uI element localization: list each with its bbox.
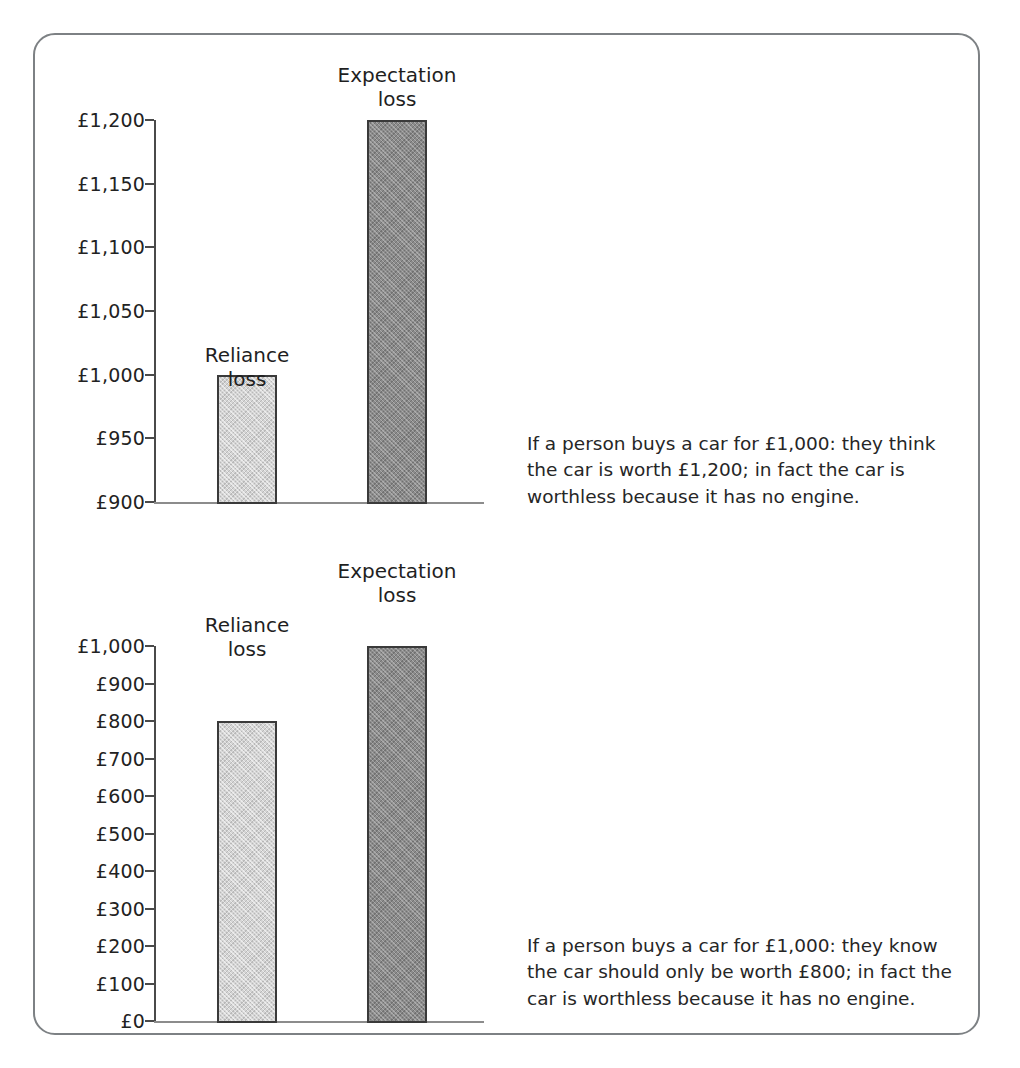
y-tick-label: £700: [96, 749, 145, 768]
y-axis-tick-mark: [145, 246, 154, 248]
y-axis-tick-mark: [145, 945, 154, 947]
chart-panel-top: £900£950£1,000£1,050£1,100£1,150£1,200 R…: [35, 35, 982, 535]
y-tick-label: £1,100: [77, 238, 145, 257]
y-axis-tick-mark: [145, 119, 154, 121]
y-tick-label: £100: [96, 974, 145, 993]
y-axis-tick-mark: [145, 983, 154, 985]
y-axis-tick-mark: [145, 1020, 154, 1022]
y-axis-line-bottom: [154, 646, 156, 1021]
x-axis-baseline-bottom: [154, 1021, 484, 1023]
y-tick-label: £800: [96, 712, 145, 731]
x-axis-baseline-top: [154, 502, 484, 504]
y-tick-label: £300: [96, 899, 145, 918]
y-tick-label: £900: [96, 493, 145, 512]
caption-top: If a person buys a car for £1,000: they …: [527, 431, 957, 510]
y-tick-label: £1,200: [77, 111, 145, 130]
y-axis-tick-mark: [145, 758, 154, 760]
y-axis-tick-mark: [145, 720, 154, 722]
bar-label-reliance-loss-top: Reliance loss: [152, 343, 342, 392]
y-tick-label: £0: [120, 1012, 145, 1031]
y-tick-label: £1,150: [77, 174, 145, 193]
caption-bottom: If a person buys a car for £1,000: they …: [527, 933, 957, 1012]
y-tick-label: £500: [96, 824, 145, 843]
bar-reliance-loss-bottom: [217, 721, 277, 1023]
y-axis-tick-mark: [145, 833, 154, 835]
figure-frame: £900£950£1,000£1,050£1,100£1,150£1,200 R…: [33, 33, 980, 1035]
y-axis-tick-labels-bottom: £0£100£200£300£400£500£600£700£800£900£1…: [35, 535, 145, 1061]
y-tick-label: £1,050: [77, 302, 145, 321]
y-tick-label: £400: [96, 862, 145, 881]
y-axis-tick-mark: [145, 310, 154, 312]
y-axis-tick-mark: [145, 501, 154, 503]
y-axis-tick-labels-top: £900£950£1,000£1,050£1,100£1,150£1,200: [35, 35, 145, 542]
y-tick-label: £950: [96, 429, 145, 448]
y-axis-tick-mark: [145, 795, 154, 797]
y-axis-line-top: [154, 120, 156, 502]
y-tick-label: £1,000: [77, 365, 145, 384]
chart-panel-bottom: £0£100£200£300£400£500£600£700£800£900£1…: [35, 535, 982, 1037]
bar-label-reliance-loss-bottom: Reliance loss: [152, 613, 342, 662]
y-tick-label: £600: [96, 787, 145, 806]
bar-expectation-loss-bottom: [367, 646, 427, 1023]
y-axis-tick-mark: [145, 870, 154, 872]
y-tick-label: £1,000: [77, 637, 145, 656]
y-tick-label: £200: [96, 937, 145, 956]
y-axis-tick-mark: [145, 437, 154, 439]
bar-reliance-loss-top: [217, 375, 277, 504]
bar-expectation-loss-top: [367, 120, 427, 504]
bar-label-expectation-loss-top: Expectation loss: [302, 63, 492, 112]
y-tick-label: £900: [96, 674, 145, 693]
bar-label-expectation-loss-bottom: Expectation loss: [302, 559, 492, 608]
y-axis-tick-mark: [145, 908, 154, 910]
y-axis-tick-mark: [145, 683, 154, 685]
y-axis-tick-mark: [145, 183, 154, 185]
